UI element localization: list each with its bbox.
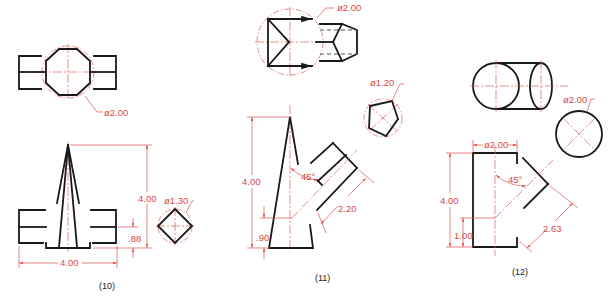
fig10-front-view: 4.00 .88 4.00 [19, 142, 157, 268]
fig10-aux-view: ø1.30 [156, 195, 194, 245]
fig12-aux-diameter-label: ø2.00 [563, 94, 587, 105]
fig10-offset-label: .88 [128, 233, 141, 244]
figure-10: ø2.00 4.00 .88 [19, 44, 194, 291]
fig11-angle-label: 45° [301, 171, 316, 182]
fig11-top-view: ø2.00 [255, 2, 361, 78]
figure-11: ø2.00 4.00 .90 45° [242, 2, 404, 283]
fig12-angle-label: 45° [508, 174, 523, 185]
fig12-length-label: 2.63 [543, 223, 562, 234]
fig11-front-view: 4.00 .90 45° 2.20 [242, 105, 374, 259]
figure-12: ø2.00 ø2.00 4.00 1.00 [440, 60, 602, 277]
fig11-top-diameter-label: ø2.00 [337, 2, 361, 13]
fig11-height-label: 4.00 [242, 176, 261, 187]
fig11-caption: (11) [315, 273, 330, 283]
fig10-width-label: 4.00 [60, 257, 79, 268]
drawing-sheet: ø2.00 4.00 .88 [0, 0, 615, 302]
fig12-front-view: ø2.00 4.00 1.00 45° 2.63 [440, 139, 578, 256]
fig10-caption: (10) [99, 281, 115, 291]
fig12-offset-label: 1.00 [454, 230, 473, 241]
fig11-offset-label: .90 [256, 232, 269, 243]
fig11-aux-view: ø1.20 [364, 77, 404, 137]
fig10-top-view: ø2.00 [19, 44, 128, 118]
fig10-aux-diameter-label: ø1.30 [164, 195, 188, 206]
fig12-caption: (12) [512, 267, 528, 277]
fig11-length-label: 2.20 [338, 203, 357, 214]
fig10-height-label: 4.00 [138, 193, 157, 204]
fig12-width-label: ø2.00 [484, 139, 508, 150]
fig10-top-diameter-label: ø2.00 [104, 107, 128, 118]
fig12-top-view [470, 60, 568, 112]
fig11-aux-diameter-label: ø1.20 [370, 77, 394, 88]
fig12-height-label: 4.00 [440, 195, 459, 206]
fig12-aux-view: ø2.00 [556, 94, 602, 157]
